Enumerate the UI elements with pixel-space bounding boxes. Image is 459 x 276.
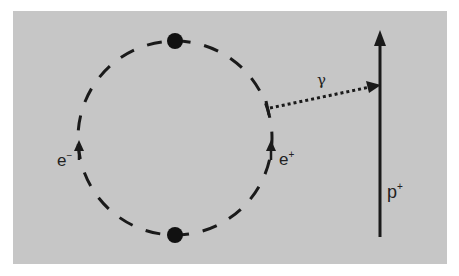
diagram-canvas: e− e+ γ p+ (0, 0, 459, 276)
proton-arrowhead-icon (374, 30, 386, 46)
photon-label: γ (317, 71, 326, 89)
positron-label: e+ (279, 149, 294, 169)
electron-direction-arrow-icon (74, 140, 84, 160)
orbit-ring (78, 41, 272, 235)
positron-direction-arrow-icon (266, 140, 276, 160)
electron-label: e− (57, 150, 72, 170)
proton-label: p+ (387, 181, 403, 202)
bottom-particle (167, 227, 183, 243)
top-particle (167, 33, 183, 49)
emission-point (266, 101, 269, 115)
photon-arrow (270, 87, 370, 108)
